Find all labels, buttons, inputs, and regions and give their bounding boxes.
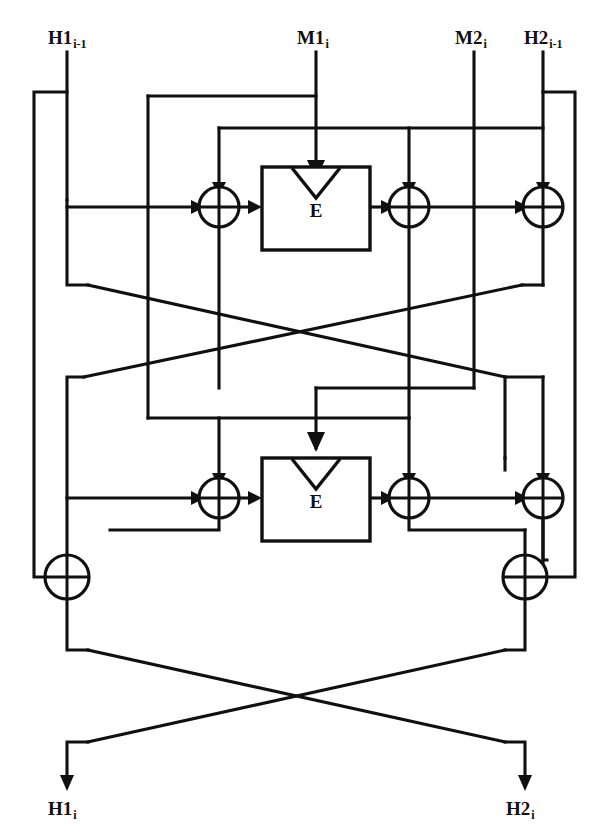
output-label-h1: H1i: [48, 798, 76, 820]
xor-final-left: [45, 555, 89, 599]
arrowhead-h1-output: [60, 775, 74, 791]
wire-cross-left-descend: [67, 377, 84, 555]
wire-cross-left-top-stub: [67, 207, 88, 285]
e-block-bottom-label: E: [310, 491, 323, 512]
xor-final-right: [503, 555, 547, 599]
input-label-m2: M2i: [455, 27, 486, 49]
e-block-top-label: E: [310, 200, 323, 221]
wire-h1-feedforward-left: [34, 92, 67, 577]
arrowhead-e-bottom-in: [248, 491, 262, 505]
diagram-canvas: E E: [0, 0, 597, 836]
hash-function-diagram: E E: [0, 0, 597, 836]
wire-final-left-down: [67, 599, 88, 650]
xor-top-right: [523, 187, 563, 227]
arrowhead-e-top-in: [248, 200, 262, 214]
input-label-m1: M1i: [297, 27, 328, 49]
xor-bottom-left: [199, 478, 239, 518]
e-block-top: E: [262, 167, 370, 250]
input-label-h2-prev: H2i-1: [524, 27, 562, 49]
input-label-h1-prev: H1i-1: [48, 27, 86, 49]
output-label-h2: H2i: [506, 798, 534, 820]
xor-bottom-right: [523, 478, 563, 518]
wire-xor-bottom-left-to-final-left: [110, 518, 219, 530]
xor-top-mid: [389, 187, 429, 227]
xor-bottom-mid: [389, 478, 429, 518]
xor-top-left: [199, 187, 239, 227]
wire-bottom-right-output-stem: [505, 742, 525, 775]
wire-xor-bottom-mid-to-final-right: [409, 518, 525, 530]
wire-h1-to-xor-top-left: [67, 200, 191, 207]
wire-bottom-left-output-stem: [67, 742, 88, 775]
arrowhead-e-bottom-key: [307, 432, 325, 452]
wire-final-right-down: [505, 599, 525, 650]
arrowhead-h2-output: [518, 775, 532, 791]
e-block-bottom: E: [262, 458, 370, 541]
